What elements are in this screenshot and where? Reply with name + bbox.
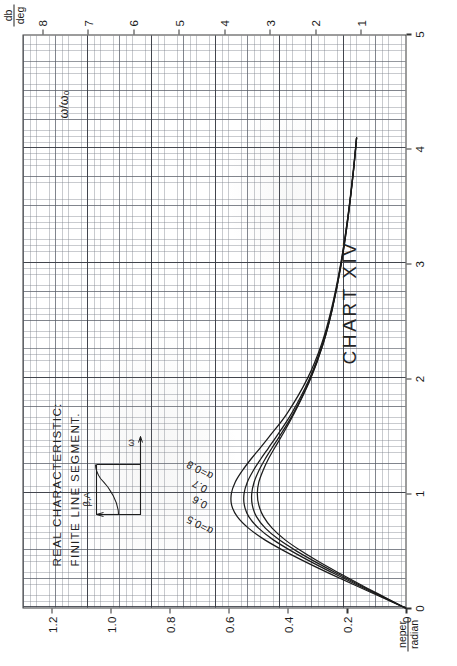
y-axis-right-unit: db deg bbox=[2, 0, 25, 30]
y-left-tick-label: 1.2 bbox=[46, 616, 58, 633]
y-right-tick-label: 4 bbox=[218, 19, 230, 26]
chart-caption-line-2: FINITE LINE SEGMENT. bbox=[66, 412, 83, 566]
chart-stage: 012345 00.20.40.60.81.01.2 12345678 nepe… bbox=[0, 0, 457, 666]
y-left-tick-label: 1.0 bbox=[105, 616, 117, 633]
x-tick-label: 2 bbox=[413, 375, 425, 382]
y-right-tick-label: 6 bbox=[127, 19, 139, 26]
y-right-tick-label: 5 bbox=[173, 19, 185, 26]
x-tick-mark bbox=[406, 493, 411, 494]
x-axis-label: ω/ω₀ bbox=[56, 90, 70, 118]
y-right-tick-label: 2 bbox=[309, 19, 321, 26]
chart-caption-line-1: REAL CHARACTERISTIC: bbox=[48, 402, 65, 566]
x-tick-label: 5 bbox=[413, 31, 425, 38]
x-tick-label: 1 bbox=[413, 490, 425, 497]
y-axis-left-unit: neper radian bbox=[396, 610, 419, 658]
page-title: CHART XIV bbox=[338, 240, 360, 364]
y-left-tick-label: 0.2 bbox=[341, 616, 353, 633]
y-right-tick-mark bbox=[87, 29, 88, 34]
y-left-unit-denominator: radian bbox=[407, 617, 419, 650]
y-right-tick-label: 3 bbox=[264, 19, 276, 26]
inset-sketch-drawing bbox=[90, 426, 150, 522]
curve-0.6 bbox=[251, 137, 406, 608]
y-left-unit-numerator: neper bbox=[396, 617, 407, 650]
inset-label-beta-a: β,A bbox=[80, 492, 91, 506]
y-left-tick-label: 0.6 bbox=[223, 616, 235, 633]
curve-0.5 bbox=[257, 137, 406, 608]
y-right-tick-mark bbox=[315, 29, 316, 34]
y-left-tick-mark bbox=[110, 608, 111, 613]
y-right-tick-label: 8 bbox=[36, 19, 48, 26]
x-tick-mark bbox=[406, 263, 411, 264]
y-left-tick-mark bbox=[346, 608, 347, 613]
y-left-tick-mark bbox=[287, 608, 288, 613]
y-right-tick-label: 7 bbox=[82, 19, 94, 26]
y-left-tick-mark bbox=[169, 608, 170, 613]
curve-0.7 bbox=[243, 137, 406, 608]
y-right-unit-denominator: deg bbox=[13, 4, 25, 26]
x-tick-label: 3 bbox=[413, 260, 425, 267]
y-right-tick-mark bbox=[269, 29, 270, 34]
x-tick-mark bbox=[406, 148, 411, 149]
x-tick-mark bbox=[406, 33, 411, 34]
y-right-tick-mark bbox=[178, 29, 179, 34]
y-right-tick-mark bbox=[224, 29, 225, 34]
x-tick-label: 4 bbox=[413, 146, 425, 153]
y-left-tick-label: 0.4 bbox=[282, 616, 294, 633]
y-left-tick-label: 0.8 bbox=[164, 616, 176, 633]
y-right-tick-mark bbox=[42, 29, 43, 34]
scanned-chart-page: 012345 00.20.40.60.81.01.2 12345678 nepe… bbox=[0, 0, 457, 666]
y-left-tick-mark bbox=[51, 608, 52, 613]
y-right-unit-numerator: db bbox=[2, 4, 13, 26]
y-right-tick-mark bbox=[133, 29, 134, 34]
curve-0.8 bbox=[230, 137, 406, 608]
inset-label-omega: ω bbox=[124, 439, 135, 446]
y-right-tick-label: 1 bbox=[355, 19, 367, 26]
x-tick-mark bbox=[406, 378, 411, 379]
y-left-tick-mark bbox=[228, 608, 229, 613]
inset-sketch: β,A ω bbox=[90, 426, 150, 522]
y-right-tick-mark bbox=[360, 29, 361, 34]
